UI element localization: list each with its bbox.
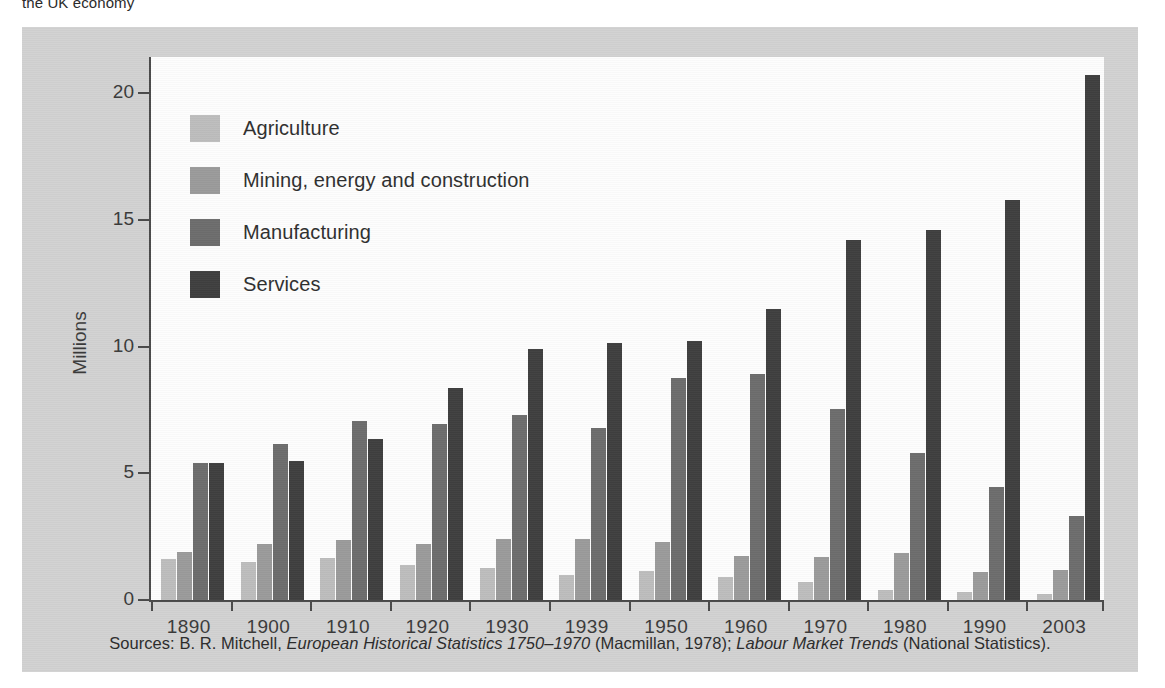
legend-item: Manufacturing xyxy=(190,206,530,258)
bar-agriculture-1960 xyxy=(718,577,733,600)
x-tick-mark xyxy=(231,602,233,611)
bar-agriculture-2003 xyxy=(1037,594,1052,600)
bar-manufacturing-1910 xyxy=(352,421,367,600)
bar-agriculture-1950 xyxy=(639,571,654,600)
bar-group xyxy=(718,57,781,600)
y-tick-label: 10 xyxy=(88,335,134,357)
bar-mining-1960 xyxy=(734,556,749,600)
bar-services-1960 xyxy=(766,309,781,601)
bar-services-1939 xyxy=(607,343,622,600)
bar-mining-1950 xyxy=(655,542,670,600)
y-tick-mark xyxy=(138,92,149,94)
y-tick-label: 20 xyxy=(88,81,134,103)
bar-mining-1900 xyxy=(257,544,272,600)
legend-label: Mining, energy and construction xyxy=(243,169,530,192)
x-tick-mark xyxy=(469,602,471,611)
source-note-title-1: European Historical Statistics 1750–1970 xyxy=(287,634,591,652)
bar-services-1990 xyxy=(1005,200,1020,601)
bar-mining-1930 xyxy=(496,539,511,600)
bar-services-1900 xyxy=(289,461,304,600)
source-note: Sources: B. R. Mitchell, European Histor… xyxy=(22,634,1138,653)
source-note-suffix: (National Statistics). xyxy=(898,634,1050,652)
legend-item: Services xyxy=(190,258,530,310)
legend-swatch-icon xyxy=(190,167,220,194)
source-note-title-2: Labour Market Trends xyxy=(736,634,898,652)
bar-group xyxy=(639,57,702,600)
figure-panel: Millions 05101520 1890190019101920193019… xyxy=(22,27,1138,672)
bar-services-1910 xyxy=(368,439,383,600)
legend-label: Services xyxy=(243,273,321,296)
legend-item: Mining, energy and construction xyxy=(190,154,530,206)
source-note-prefix: Sources: B. R. Mitchell, xyxy=(109,634,286,652)
bar-agriculture-1920 xyxy=(400,565,415,600)
bar-manufacturing-1990 xyxy=(989,487,1004,600)
bar-services-1970 xyxy=(846,240,861,600)
bar-manufacturing-1950 xyxy=(671,378,686,600)
x-tick-mark-end xyxy=(1102,602,1104,611)
bar-agriculture-1910 xyxy=(320,558,335,600)
x-tick-mark xyxy=(788,602,790,611)
bar-mining-1910 xyxy=(336,540,351,600)
legend-label: Agriculture xyxy=(243,117,340,140)
bar-group xyxy=(798,57,861,600)
bar-manufacturing-1939 xyxy=(591,428,606,600)
x-axis-line xyxy=(149,600,1104,602)
bar-mining-1939 xyxy=(575,539,590,600)
x-tick-mark xyxy=(947,602,949,611)
source-note-middle: (Macmillan, 1978); xyxy=(590,634,736,652)
legend-swatch-icon xyxy=(190,219,220,246)
bar-mining-1890 xyxy=(177,552,192,600)
y-tick-mark xyxy=(138,599,149,601)
page-caption-above-figure: the UK economy xyxy=(22,0,134,11)
bar-mining-1970 xyxy=(814,557,829,600)
bar-agriculture-1890 xyxy=(161,559,176,600)
bar-agriculture-1990 xyxy=(957,592,972,600)
chart-legend: AgricultureMining, energy and constructi… xyxy=(190,102,530,310)
bar-manufacturing-1960 xyxy=(750,374,765,600)
bar-group xyxy=(1037,57,1100,600)
bar-mining-1920 xyxy=(416,544,431,600)
x-tick-mark xyxy=(390,602,392,611)
bar-group xyxy=(878,57,941,600)
y-tick-label: 15 xyxy=(88,208,134,230)
x-tick-mark xyxy=(1026,602,1028,611)
bar-group xyxy=(559,57,622,600)
legend-item: Agriculture xyxy=(190,102,530,154)
x-tick-mark xyxy=(549,602,551,611)
legend-label: Manufacturing xyxy=(243,221,371,244)
bar-mining-1980 xyxy=(894,553,909,600)
bar-services-1980 xyxy=(926,230,941,600)
legend-swatch-icon xyxy=(190,115,220,142)
bar-group xyxy=(957,57,1020,600)
y-tick-label: 0 xyxy=(88,588,134,610)
y-tick-mark xyxy=(138,219,149,221)
bar-agriculture-1930 xyxy=(480,568,495,600)
y-tick-mark xyxy=(138,346,149,348)
bar-agriculture-1900 xyxy=(241,562,256,600)
bar-services-1920 xyxy=(448,388,463,600)
bar-manufacturing-1980 xyxy=(910,453,925,600)
bar-mining-1990 xyxy=(973,572,988,600)
bar-agriculture-1970 xyxy=(798,582,813,600)
bar-manufacturing-1970 xyxy=(830,409,845,600)
bar-manufacturing-1900 xyxy=(273,444,288,600)
y-tick-mark xyxy=(138,472,149,474)
x-tick-mark xyxy=(310,602,312,611)
bar-services-1890 xyxy=(209,463,224,600)
bar-manufacturing-1920 xyxy=(432,424,447,600)
bar-mining-2003 xyxy=(1053,570,1068,600)
bar-manufacturing-1930 xyxy=(512,415,527,600)
bar-services-1950 xyxy=(687,341,702,600)
y-axis-line xyxy=(149,57,151,602)
bar-manufacturing-2003 xyxy=(1069,516,1084,600)
bar-services-1930 xyxy=(528,349,543,600)
x-tick-mark xyxy=(708,602,710,611)
y-tick-label: 5 xyxy=(88,461,134,483)
bar-agriculture-1980 xyxy=(878,590,893,600)
bar-agriculture-1939 xyxy=(559,575,574,600)
legend-swatch-icon xyxy=(190,271,220,298)
x-tick-mark xyxy=(629,602,631,611)
x-tick-mark xyxy=(151,602,153,611)
bar-manufacturing-1890 xyxy=(193,463,208,600)
x-tick-mark xyxy=(867,602,869,611)
